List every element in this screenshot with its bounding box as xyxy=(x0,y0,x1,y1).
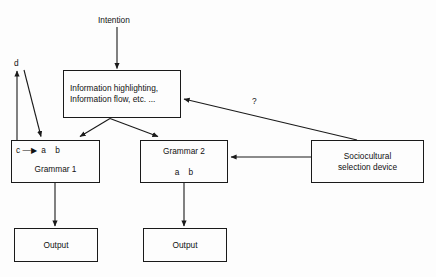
output-right-label: Output xyxy=(173,240,198,251)
node-information-highlighting[interactable]: Information highlighting, Information fl… xyxy=(63,70,181,118)
edge-sociocultural-to-information xyxy=(184,99,357,140)
d-label: d xyxy=(14,58,19,68)
diagram-canvas: Intention d ? Information highlighting, … xyxy=(0,0,436,277)
output-left-label: Output xyxy=(44,240,69,251)
information-line-1: Information highlighting, xyxy=(70,83,158,94)
grammar2-title: Grammar 2 xyxy=(163,146,205,157)
question-mark-label: ? xyxy=(252,96,257,106)
edge-information-to-grammar2 xyxy=(110,119,158,137)
information-line-2: Information flow, etc. ... xyxy=(70,94,155,105)
grammar2-symbols: a b xyxy=(175,157,193,178)
edge-information-to-grammar1 xyxy=(80,119,110,137)
node-output-right[interactable]: Output xyxy=(143,228,227,262)
node-grammar-1[interactable]: c —▶ a b Grammar 1 xyxy=(11,140,100,183)
sociocultural-line-1: Sociocultural xyxy=(344,151,392,162)
node-output-left[interactable]: Output xyxy=(14,228,98,262)
edge-d-to-grammar1 xyxy=(24,70,41,137)
grammar1-title: Grammar 1 xyxy=(12,156,99,175)
intention-label: Intention xyxy=(98,15,130,25)
node-grammar-2[interactable]: Grammar 2 a b xyxy=(140,140,228,183)
grammar1-rule: c —▶ a b xyxy=(12,145,60,156)
node-sociocultural-selection-device[interactable]: Sociocultural selection device xyxy=(311,140,424,183)
sociocultural-line-2: selection device xyxy=(338,162,397,173)
